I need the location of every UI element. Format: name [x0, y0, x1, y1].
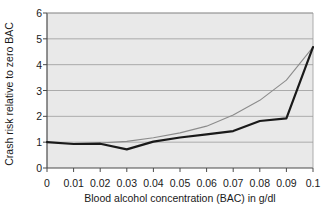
x-tick-label: 0.01 [63, 177, 83, 189]
x-tick-label: 0.02 [90, 177, 110, 189]
x-tick-label: 0 [44, 177, 50, 189]
x-tick-label: 0.05 [170, 177, 190, 189]
chart-container: Crash risk relative to zero BAC 0123456 … [0, 0, 328, 214]
x-axis-label: Blood alcohol concentration (BAC) in g/d… [47, 192, 313, 204]
x-tick-label: 0.06 [196, 177, 216, 189]
x-tick-label: 0.07 [223, 177, 243, 189]
x-tick-label: 0.04 [143, 177, 163, 189]
x-tick-label: 0.1 [306, 177, 321, 189]
x-tick-label: 0.08 [250, 177, 270, 189]
x-tick-label: 0.03 [117, 177, 137, 189]
x-axis-tick-labels: 00.010.020.030.040.050.060.070.080.090.1 [0, 170, 328, 188]
x-tick-label: 0.09 [276, 177, 296, 189]
